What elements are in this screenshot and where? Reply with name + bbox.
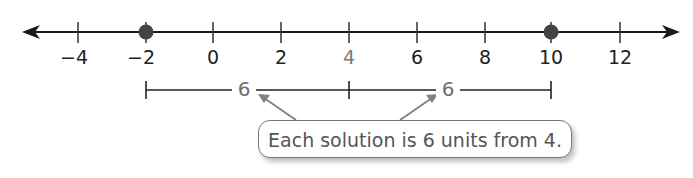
tick-label-10: 10	[531, 46, 571, 68]
segment-label-right: 6	[436, 78, 460, 100]
tick-label-8: 8	[465, 46, 505, 68]
callout-box: Each solution is 6 units from 4.	[258, 120, 572, 158]
number-line-diagram: −4 −2 0 2 4 6 8 10 12 6 6 Each solution …	[0, 0, 693, 178]
solution-dot-10	[544, 25, 559, 40]
tick-label-6: 6	[397, 46, 437, 68]
tick-label-2: 2	[261, 46, 301, 68]
tick-label-neg2: −2	[121, 46, 161, 68]
tick-label-12: 12	[600, 46, 640, 68]
segment-label-left: 6	[232, 78, 256, 100]
distance-brackets	[146, 81, 551, 99]
solution-dot-neg2	[139, 25, 154, 40]
callout-pointers	[258, 94, 438, 120]
tick-label-0: 0	[193, 46, 233, 68]
tick-label-4: 4	[329, 46, 369, 68]
tick-label-neg4: −4	[54, 46, 94, 68]
